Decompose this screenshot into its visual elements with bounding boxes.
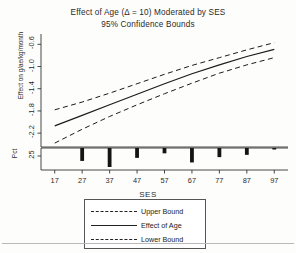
legend-item: Upper Bound [91,204,199,218]
legend-line-swatch [91,235,137,243]
legend: Upper BoundEffect of AgeLower Bound [84,199,206,249]
legend-label: Upper Bound [137,207,183,216]
legend-label: Effect of Age [137,221,182,230]
legend-line-swatch [91,221,137,229]
legend-item: Effect of Age [91,218,199,232]
bottom-divider [2,243,294,244]
legend-line-swatch [91,207,137,215]
histogram-bars [80,148,276,167]
figure-canvas: Effect of Age (Δ = 10) Moderated by SES … [0,0,296,253]
series-lines [55,43,275,143]
